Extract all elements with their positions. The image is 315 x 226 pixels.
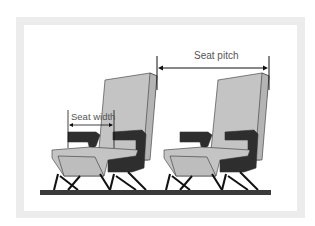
seat-diagram bbox=[0, 0, 315, 226]
seat-pitch-label: Seat pitch bbox=[194, 50, 238, 61]
seat-width-label: Seat width bbox=[71, 111, 115, 122]
floor-bar bbox=[40, 190, 271, 195]
seat-2 bbox=[164, 73, 269, 190]
